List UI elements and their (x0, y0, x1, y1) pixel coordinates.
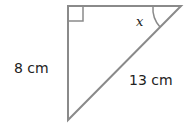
triangle-diagram: x 8 cm 13 cm (0, 0, 187, 127)
right-angle-marker (68, 6, 83, 21)
vertical-side-label: 8 cm (14, 60, 49, 76)
angle-arc (153, 6, 160, 27)
hypotenuse-label: 13 cm (129, 72, 173, 88)
triangle (68, 6, 181, 120)
angle-label: x (136, 14, 144, 29)
